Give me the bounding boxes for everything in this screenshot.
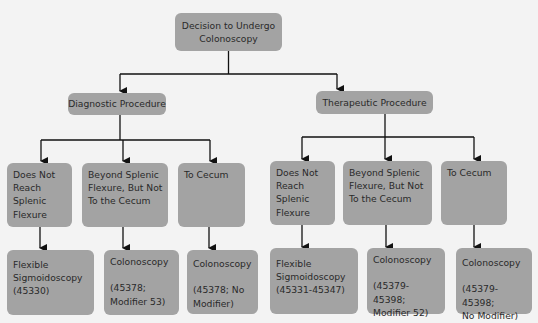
branch-therapeutic: Therapeutic Procedure [316, 91, 433, 114]
diagnostic-extent-beyond-splenic: Beyond Splenic Flexure, But Not To the C… [82, 163, 168, 227]
branch-diagnostic: Diagnostic Procedure [68, 93, 166, 115]
diagnostic-outcome-colonoscopy-53: Colonoscopy (45378; Modifier 53) [104, 250, 179, 315]
outcome-label: Flexible Sigmoidoscopy (45330) [13, 259, 83, 296]
node-label: Beyond Splenic Flexure, But Not To the C… [88, 169, 162, 206]
outcome-label: Colonoscopy (45379-45398; Modifier 52) [373, 254, 431, 318]
root-label: Decision to Undergo Colonoscopy [182, 19, 275, 45]
therapeutic-outcome-sigmoidoscopy: Flexible Sigmoidoscopy (45331-45347) [270, 248, 358, 314]
outcome-label: Colonoscopy (45378; No Modifier) [193, 258, 251, 309]
root-node: Decision to Undergo Colonoscopy [175, 13, 282, 51]
branch-diagnostic-label: Diagnostic Procedure [68, 97, 166, 110]
node-label: Beyond Splenic Flexure, But Not To the C… [349, 167, 423, 204]
diagnostic-extent-not-splenic: Does Not Reach Splenic Flexure [7, 163, 72, 227]
node-label: To Cecum [184, 169, 228, 180]
therapeutic-extent-cecum: To Cecum [441, 161, 507, 225]
diagnostic-extent-cecum: To Cecum [178, 163, 245, 227]
node-label: Does Not Reach Splenic Flexure [13, 169, 55, 220]
outcome-label: Colonoscopy (45379-45398; No Modifier) [462, 257, 520, 321]
node-label: Does Not Reach Splenic Flexure [276, 167, 318, 218]
branch-therapeutic-label: Therapeutic Procedure [322, 96, 426, 109]
outcome-label: Colonoscopy (45378; Modifier 53) [110, 256, 168, 307]
diagnostic-outcome-sigmoidoscopy: Flexible Sigmoidoscopy (45330) [7, 250, 94, 315]
therapeutic-extent-not-splenic: Does Not Reach Splenic Flexure [270, 161, 335, 225]
diagnostic-outcome-colonoscopy-nomod: Colonoscopy (45378; No Modifier) [187, 250, 258, 314]
therapeutic-extent-beyond-splenic: Beyond Splenic Flexure, But Not To the C… [343, 161, 432, 225]
therapeutic-outcome-colonoscopy-52: Colonoscopy (45379-45398; Modifier 52) [367, 248, 445, 314]
node-label: To Cecum [447, 167, 491, 178]
therapeutic-outcome-colonoscopy-nomod: Colonoscopy (45379-45398; No Modifier) [456, 248, 532, 314]
outcome-label: Flexible Sigmoidoscopy (45331-45347) [276, 258, 346, 295]
